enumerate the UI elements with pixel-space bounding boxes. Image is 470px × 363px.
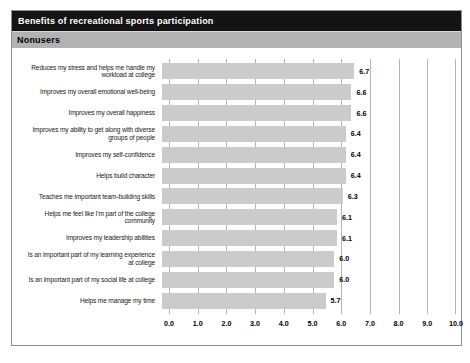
- category-label: Improves my self-confidence: [12, 151, 162, 159]
- bar-track: 6.1: [162, 209, 449, 225]
- category-label: Reduces my stress and helps me handle my…: [12, 64, 162, 79]
- bar-row: Is an important part of my learning expe…: [12, 248, 456, 269]
- bar-track: 6.1: [162, 230, 449, 246]
- x-tick-label: 5.0: [301, 319, 325, 328]
- chart-title-bar: Benefits of recreational sports particip…: [12, 11, 461, 31]
- bar: [162, 105, 351, 121]
- x-axis-tick-labels: 0.01.02.03.04.05.06.07.08.09.010.0: [169, 319, 456, 329]
- bar-track: 5.7: [162, 293, 449, 309]
- x-tick-label: 3.0: [243, 319, 267, 328]
- bar-row: Improves my ability to get along with di…: [12, 123, 456, 144]
- x-tick-label: 2.0: [214, 319, 238, 328]
- bar: [162, 63, 354, 79]
- value-label: 6.4: [351, 171, 361, 180]
- bar-track: 6.0: [162, 251, 449, 267]
- value-label: 6.4: [351, 150, 361, 159]
- bar-row: Reduces my stress and helps me handle my…: [12, 61, 456, 82]
- plot-area: Reduces my stress and helps me handle my…: [12, 48, 461, 345]
- bar-row: Improves my self-confidence6.4: [12, 144, 456, 165]
- category-label: Teaches me important team-building skill…: [12, 193, 162, 201]
- bar: [162, 209, 337, 225]
- chart-subtitle: Nonusers: [17, 35, 60, 45]
- category-label: Improves my overall emotional well-being: [12, 88, 162, 96]
- category-label: Helps me feel like I'm part of the colle…: [12, 210, 162, 225]
- bar: [162, 251, 334, 267]
- bar-row: Improves my leadership abilities6.1: [12, 228, 456, 249]
- value-label: 6.1: [342, 234, 352, 243]
- bar-track: 6.4: [162, 126, 449, 142]
- x-tick-label: 8.0: [387, 319, 411, 328]
- value-label: 6.7: [359, 67, 369, 76]
- bar: [162, 230, 337, 246]
- bar-row: Helps me feel like I'm part of the colle…: [12, 207, 456, 228]
- x-tick-label: 9.0: [415, 319, 439, 328]
- bar-row: Improves my overall emotional well-being…: [12, 82, 456, 103]
- x-tick-label: 4.0: [272, 319, 296, 328]
- chart-panel: Benefits of recreational sports particip…: [11, 10, 462, 346]
- bar-row: Is an important part of my social life a…: [12, 269, 456, 290]
- value-label: 6.1: [342, 213, 352, 222]
- bar-track: 6.7: [162, 63, 449, 79]
- value-label: 6.3: [348, 192, 358, 201]
- category-label: Improves my overall happiness: [12, 109, 162, 117]
- bar: [162, 84, 351, 100]
- value-label: 6.0: [339, 254, 349, 263]
- bar-row: Improves my overall happiness6.6: [12, 103, 456, 124]
- bar-track: 6.4: [162, 168, 449, 184]
- x-tick-label: 6.0: [329, 319, 353, 328]
- x-tick-label: 10.0: [444, 319, 468, 328]
- bar: [162, 147, 346, 163]
- bar-track: 6.6: [162, 105, 449, 121]
- bar: [162, 188, 343, 204]
- chart-title: Benefits of recreational sports particip…: [18, 16, 214, 26]
- x-tick-label: 0.0: [157, 319, 181, 328]
- category-label: Improves my leadership abilities: [12, 234, 162, 242]
- bar: [162, 168, 346, 184]
- x-tick-label: 7.0: [358, 319, 382, 328]
- value-label: 6.6: [356, 88, 366, 97]
- bar: [162, 293, 326, 309]
- bar-rows: Reduces my stress and helps me handle my…: [12, 61, 456, 311]
- category-label: Helps build character: [12, 172, 162, 180]
- bar: [162, 126, 346, 142]
- bar-track: 6.4: [162, 147, 449, 163]
- category-label: Is an important part of my learning expe…: [12, 251, 162, 266]
- bar-row: Teaches me important team-building skill…: [12, 186, 456, 207]
- bar-row: Helps build character6.4: [12, 165, 456, 186]
- value-label: 6.4: [351, 129, 361, 138]
- category-label: Is an important part of my social life a…: [12, 276, 162, 284]
- value-label: 6.0: [339, 275, 349, 284]
- x-tick-label: 1.0: [186, 319, 210, 328]
- bar-track: 6.6: [162, 84, 449, 100]
- bar-row: Helps me manage my time5.7: [12, 290, 456, 311]
- chart-subtitle-bar: Nonusers: [12, 31, 461, 48]
- bar-track: 6.0: [162, 272, 449, 288]
- category-label: Helps me manage my time: [12, 297, 162, 305]
- bar-track: 6.3: [162, 188, 449, 204]
- category-label: Improves my ability to get along with di…: [12, 126, 162, 141]
- value-label: 6.6: [356, 109, 366, 118]
- bar: [162, 272, 334, 288]
- value-label: 5.7: [331, 296, 341, 305]
